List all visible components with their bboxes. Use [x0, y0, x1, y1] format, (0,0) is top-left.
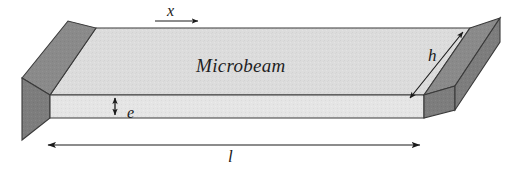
- l-dimension-label: l: [228, 148, 233, 165]
- beam-illustration: [0, 0, 522, 172]
- h-dimension-label: h: [428, 47, 437, 64]
- microbeam-figure: Microbeam x h e l: [0, 0, 522, 172]
- microbeam-body-label: Microbeam: [196, 55, 286, 77]
- beam-front-band: [50, 95, 424, 118]
- x-axis-label: x: [167, 3, 174, 19]
- e-dimension-label: e: [127, 105, 134, 121]
